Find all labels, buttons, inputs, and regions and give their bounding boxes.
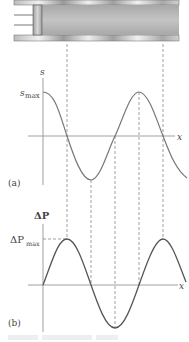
panel-a-label: (a)	[8, 178, 20, 188]
tube	[14, 0, 179, 41]
s-max-subscript: max	[25, 92, 40, 100]
pressure-curve	[43, 239, 186, 328]
panel-b: ΔP ΔP max x (b)	[8, 210, 186, 332]
s-axis-label: s	[40, 67, 45, 77]
caption-faint	[8, 335, 118, 340]
dp-axis-label: ΔP	[34, 210, 50, 221]
dp-max-label: ΔP	[10, 234, 24, 245]
piston	[33, 5, 42, 35]
x-label-a: x	[177, 132, 182, 142]
panel-b-label: (b)	[8, 318, 21, 328]
dp-max-subscript: max	[26, 240, 40, 248]
panel-a: s s max x (a)	[8, 67, 187, 188]
wave-diagram: s s max x (a) ΔP ΔP max x (b)	[0, 0, 189, 342]
x-label-b: x	[179, 281, 184, 291]
